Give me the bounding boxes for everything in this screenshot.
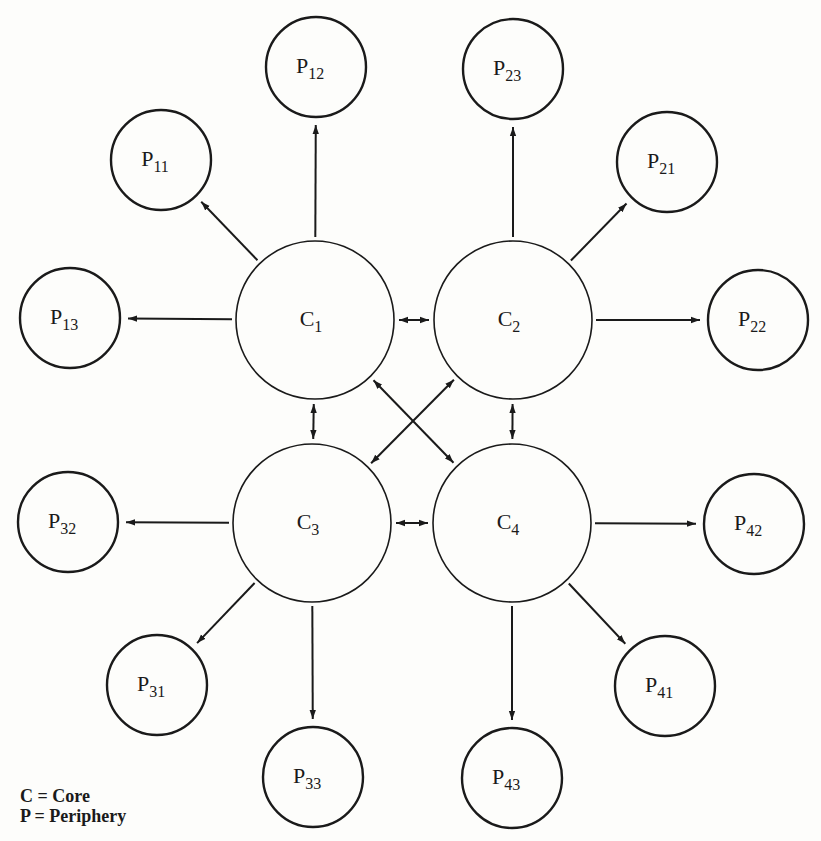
core-label: C1	[300, 306, 323, 335]
periphery-label: P41	[645, 672, 673, 701]
periphery-label: P11	[141, 146, 169, 175]
periphery-node-p12: P12	[266, 17, 366, 117]
periphery-label: P22	[738, 306, 766, 335]
periphery-node-p11: P11	[111, 110, 211, 210]
core-node-c1: C1	[236, 241, 394, 399]
periphery-label: P43	[492, 764, 520, 793]
core-label: C4	[497, 509, 520, 538]
arrow-c1-p13	[128, 318, 232, 319]
periphery-label: P13	[50, 304, 78, 333]
periphery-label: P23	[493, 55, 521, 84]
periphery-node-p43: P43	[462, 728, 562, 828]
legend-periphery: P = Periphery	[20, 806, 126, 826]
core-periphery-diagram: C1C2C3C4P11P12P13P21P22P23P31P32P33P41P4…	[0, 0, 821, 841]
periphery-node-p21: P21	[617, 112, 717, 212]
periphery-label: P33	[293, 763, 321, 792]
periphery-node-p23: P23	[463, 19, 563, 119]
arrow-c4-p41	[569, 584, 626, 644]
periphery-node-p22: P22	[708, 270, 808, 370]
periphery-node-p31: P31	[107, 635, 207, 735]
legend-core: C = Core	[20, 786, 126, 806]
periphery-label: P21	[647, 148, 675, 177]
arrow-c1-p11	[201, 202, 257, 260]
arrow-c3-p31	[197, 583, 255, 643]
periphery-node-p33: P33	[263, 727, 363, 827]
periphery-node-p32: P32	[18, 472, 118, 572]
core-label: C3	[297, 509, 320, 538]
periphery-node-p13: P13	[20, 268, 120, 368]
periphery-label: P31	[137, 671, 165, 700]
network-diagram: C1C2C3C4P11P12P13P21P22P23P31P32P33P41P4…	[0, 0, 821, 841]
core-node-c3: C3	[233, 444, 391, 602]
legend: C = Core P = Periphery	[20, 786, 126, 826]
periphery-label: P42	[734, 510, 762, 539]
link-c1-c3	[313, 404, 314, 439]
periphery-node-p41: P41	[615, 636, 715, 736]
periphery-node-p42: P42	[704, 474, 804, 574]
periphery-label: P12	[296, 53, 324, 82]
core-label: C2	[498, 306, 521, 335]
periphery-label: P32	[48, 508, 76, 537]
core-node-c4: C4	[433, 444, 591, 602]
core-node-c2: C2	[434, 241, 592, 399]
arrow-c2-p21	[571, 204, 627, 261]
